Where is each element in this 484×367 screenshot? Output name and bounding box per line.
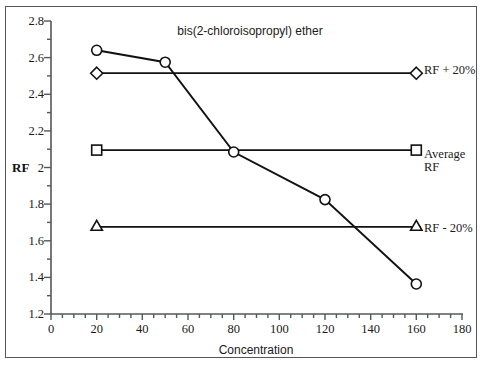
x-axis-ticks [51,314,462,320]
circle-marker [229,147,239,157]
circle-marker [92,45,102,55]
series-average-rf [92,145,422,155]
circle-marker [160,57,170,67]
series-rf [92,45,422,289]
diamond-marker [410,67,422,79]
plot-area [0,0,484,367]
triangle-marker [91,220,102,230]
chart-figure: bis(2-chloroisopropyl) ether RF Concentr… [0,0,484,367]
series-line [97,50,417,284]
series-rf-plus-20 [91,67,423,79]
y-axis-ticks [44,21,51,314]
series-rf-minus-20 [91,220,422,230]
square-marker [92,145,102,155]
triangle-marker [411,220,422,230]
square-marker [411,145,421,155]
circle-marker [320,195,330,205]
diamond-marker [91,67,103,79]
circle-marker [411,279,421,289]
